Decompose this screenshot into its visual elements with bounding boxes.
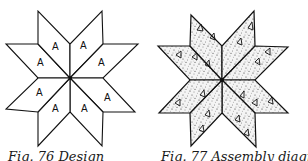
figure-76-design: A A A A A A A A Fig. 76 Design	[0, 0, 154, 161]
piece-label-a: A	[52, 103, 59, 114]
piece-label-a: A	[81, 103, 88, 114]
figure-caption: Fig. 77 Assembly diagram	[161, 150, 308, 161]
piece-label-a: A	[37, 57, 44, 68]
figure-77-assembly-diagram: Fig. 77 Assembly diagram	[154, 0, 308, 161]
piece-label-a: A	[98, 57, 105, 68]
piece-label-a: A	[36, 87, 43, 98]
star-design-diagram: A A A A A A A A	[0, 0, 154, 161]
piece-label-a: A	[52, 41, 59, 52]
piece-label-a: A	[80, 40, 87, 51]
piece-label-a: A	[104, 92, 111, 103]
star-assembly-diagram	[154, 0, 308, 161]
figure-caption: Fig. 76 Design	[8, 150, 104, 161]
